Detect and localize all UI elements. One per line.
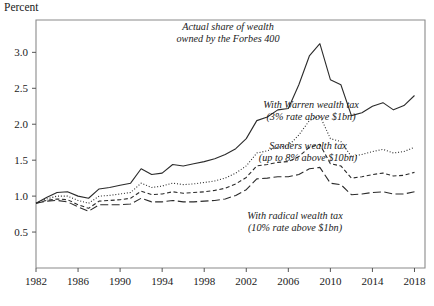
- annotation-warren-line1: With Warren wealth tax: [263, 99, 359, 110]
- x-axis-tick-label: 1998: [193, 275, 216, 287]
- x-axis-tick-label: 2018: [403, 275, 426, 287]
- x-axis-tick-label: 1986: [67, 275, 90, 287]
- x-axis-tick-label: 2014: [361, 275, 384, 287]
- y-axis-tick-label: 2.5: [14, 82, 28, 94]
- annotation-radical-line2: (10% rate above $1bn): [248, 222, 343, 234]
- chart-plot-area: 0.51.01.52.02.53.01982198619901994199820…: [0, 0, 434, 306]
- x-axis-tick-label: 1990: [109, 275, 132, 287]
- x-axis-tick-label: 2010: [319, 275, 342, 287]
- annotation-radical: With radical wealth tax(10% rate above $…: [247, 210, 343, 234]
- y-axis-tick-label: 1.0: [14, 190, 28, 202]
- x-axis-tick-label: 1994: [151, 275, 174, 287]
- y-axis-tick-label: 0.5: [14, 226, 28, 238]
- series-line: [36, 44, 414, 204]
- x-axis-tick-label: 2002: [235, 275, 257, 287]
- wealth-share-chart: Percent 0.51.01.52.02.53.019821986199019…: [0, 0, 434, 306]
- annotation-actual-line1: Actual share of wealth: [181, 21, 274, 32]
- y-axis-tick-label: 2.0: [14, 118, 28, 130]
- plot-frame: [36, 20, 425, 268]
- annotation-warren-line2: (3% rate above $1bn): [266, 111, 356, 123]
- series-line: [36, 167, 414, 211]
- series-line: [36, 116, 414, 204]
- x-axis-tick-label: 1982: [25, 275, 47, 287]
- annotation-sanders-line2: (up to 8% above $10bn): [259, 152, 358, 164]
- annotation-sanders: Sanders wealth tax(up to 8% above $10bn): [259, 140, 358, 164]
- y-axis-tick-label: 1.5: [14, 154, 28, 166]
- annotation-actual-line2: owned by the Forbes 400: [177, 33, 280, 44]
- annotation-sanders-line1: Sanders wealth tax: [269, 140, 347, 151]
- annotation-radical-line1: With radical wealth tax: [247, 210, 343, 221]
- annotation-warren: With Warren wealth tax(3% rate above $1b…: [263, 99, 359, 123]
- y-axis-tick-label: 3.0: [14, 46, 28, 58]
- annotation-actual: Actual share of wealthowned by the Forbe…: [177, 21, 280, 44]
- x-axis-tick-label: 2006: [277, 275, 300, 287]
